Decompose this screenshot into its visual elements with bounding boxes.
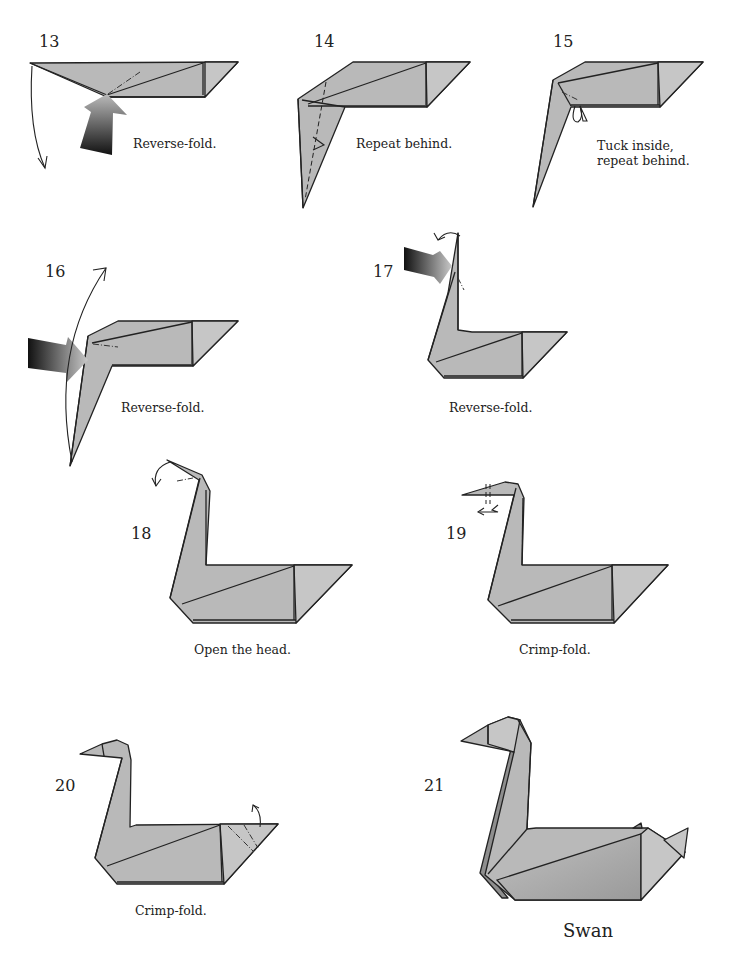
curved-arrow-icon bbox=[31, 66, 47, 168]
step-number: 21 bbox=[424, 776, 444, 795]
step-14-figure bbox=[298, 62, 470, 208]
step-21-figure bbox=[461, 717, 688, 900]
step-13-figure bbox=[30, 62, 238, 168]
final-model-title: Swan bbox=[563, 920, 613, 941]
step-caption: Crimp-fold. bbox=[135, 903, 207, 919]
step-caption: Reverse-fold. bbox=[449, 400, 532, 416]
step-caption: Repeat behind. bbox=[356, 136, 452, 152]
step-caption: Crimp-fold. bbox=[519, 642, 591, 658]
step-15-figure bbox=[533, 62, 703, 207]
step-number: 18 bbox=[131, 524, 151, 543]
step-caption: Reverse-fold. bbox=[121, 400, 204, 416]
step-caption: repeat behind. bbox=[597, 153, 690, 169]
step-18-figure bbox=[152, 460, 352, 623]
step-caption: Reverse-fold. bbox=[133, 136, 216, 152]
push-arrow-icon bbox=[80, 94, 127, 155]
curved-arrow-icon bbox=[152, 462, 170, 486]
step-number: 17 bbox=[373, 262, 393, 281]
step-19-figure bbox=[462, 482, 668, 623]
step-20-figure bbox=[80, 740, 278, 884]
step-number: 20 bbox=[55, 776, 75, 795]
step-number: 16 bbox=[45, 262, 65, 281]
step-number: 19 bbox=[446, 524, 466, 543]
step-number: 13 bbox=[39, 32, 59, 51]
step-17-figure bbox=[404, 233, 567, 378]
step-number: 14 bbox=[314, 32, 334, 51]
step-16-figure bbox=[28, 268, 238, 466]
curved-arrow-icon bbox=[434, 233, 460, 240]
push-arrow-icon bbox=[404, 247, 452, 284]
step-number: 15 bbox=[553, 32, 573, 51]
step-caption: Tuck inside, bbox=[597, 138, 674, 154]
push-arrow-icon bbox=[28, 337, 88, 383]
tuck-arrow-icon bbox=[573, 106, 587, 122]
step-caption: Open the head. bbox=[194, 642, 291, 658]
